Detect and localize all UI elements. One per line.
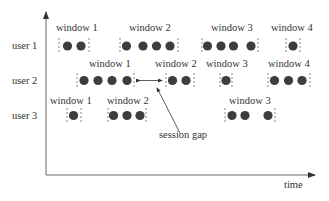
- row-label-user-2: user 2: [12, 75, 37, 86]
- window-label: window 2: [107, 95, 149, 106]
- window-label: window 1: [50, 95, 92, 106]
- event-dot: [263, 111, 272, 120]
- user-3-window-3: window 3: [225, 95, 275, 123]
- window-label: window 3: [229, 95, 271, 106]
- event-dot: [221, 76, 230, 85]
- row-label-user-3: user 3: [12, 110, 37, 121]
- event-dot: [270, 76, 279, 85]
- event-dot: [138, 41, 147, 50]
- event-dot: [69, 111, 78, 120]
- user-2-window-4: window 4: [268, 58, 310, 88]
- window-label: window 2: [129, 22, 171, 33]
- window-label: window 1: [89, 58, 131, 69]
- event-dot: [216, 41, 225, 50]
- event-dot: [181, 76, 190, 85]
- user-1-window-1: window 1: [56, 22, 98, 53]
- user-3-window-1: window 1: [50, 95, 92, 123]
- user-1-window-2: window 2: [120, 22, 178, 53]
- event-dot: [246, 41, 255, 50]
- row-label-user-1: user 1: [12, 40, 37, 51]
- event-dot: [93, 76, 102, 85]
- session-gap-label: session gap: [159, 129, 207, 140]
- event-dot: [122, 41, 131, 50]
- user-2-window-1: window 1: [77, 58, 134, 88]
- event-dot: [109, 111, 118, 120]
- event-dot: [122, 76, 131, 85]
- window-label: window 1: [56, 22, 98, 33]
- x-axis-label: time: [284, 179, 303, 190]
- event-dot: [297, 76, 306, 85]
- event-dot: [229, 41, 238, 50]
- user-3-window-2: window 2: [107, 95, 149, 123]
- user-1-window-4: window 4: [271, 22, 313, 53]
- session-window-diagram: time user 1 user 2 user 3 window 1 windo…: [0, 0, 329, 201]
- window-label: window 3: [206, 58, 248, 69]
- event-dot: [79, 76, 88, 85]
- event-dot: [168, 76, 177, 85]
- event-dot: [203, 41, 212, 50]
- event-dot: [165, 41, 174, 50]
- window-label: window 3: [211, 22, 253, 33]
- user-2-window-3: window 3: [206, 58, 248, 88]
- user-2-window-2: window 2: [155, 58, 197, 88]
- event-dot: [122, 111, 131, 120]
- window-label: window 2: [155, 58, 197, 69]
- event-dot: [227, 111, 236, 120]
- event-dot: [284, 76, 293, 85]
- event-dot: [152, 41, 161, 50]
- window-label: window 4: [268, 58, 310, 69]
- event-dot: [76, 41, 85, 50]
- event-dot: [107, 76, 116, 85]
- window-label: window 4: [271, 22, 313, 33]
- event-dot: [135, 111, 144, 120]
- session-gap-annotation: session gap: [157, 88, 207, 140]
- event-dot: [63, 41, 72, 50]
- user-1-window-3: window 3: [202, 22, 258, 53]
- event-dot: [240, 111, 249, 120]
- event-dot: [288, 41, 297, 50]
